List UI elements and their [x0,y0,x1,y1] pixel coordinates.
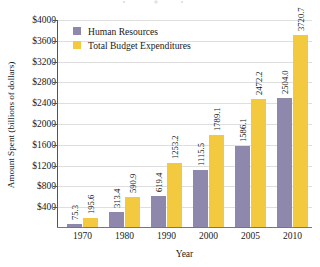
legend-item-total-budget[interactable]: Total Budget Expenditures [73,38,243,52]
y-tick-label: $2000 [10,119,56,129]
x-tick-label: 2005 [229,231,273,241]
bar-value-label: 75.3 [69,205,79,220]
y-tick-label: $1600 [10,140,56,150]
legend-swatch-icon [73,41,81,49]
x-axis-title: Year [57,249,312,259]
bar-value-label: 2504.0 [279,70,289,94]
bar-total-budget[interactable]: 2472.2 [251,99,266,228]
bar-value-label: 1253.2 [169,135,179,159]
y-tick-label: $2800 [10,77,56,87]
x-tick-label: 1990 [145,231,189,241]
bar-human-resources[interactable]: 619.4 [151,196,166,228]
bar-value-label: 2472.2 [253,72,263,96]
bar-human-resources[interactable]: 1586.1 [235,146,250,229]
bar-total-budget[interactable]: 590.9 [125,197,140,228]
x-tick-label: 2010 [271,231,315,241]
y-tick-label: $800 [10,181,56,191]
bar-value-label: 1789.1 [211,107,221,131]
y-tick-label: $2400 [10,98,56,108]
x-tick-label: 2000 [187,231,231,241]
x-axis-tick-labels: 1970 1980 1990 2000 2005 2010 [57,231,312,247]
bar-value-label: 590.9 [127,174,137,193]
bar-total-budget[interactable]: 3720.7 [293,35,308,229]
x-tick-label: 1970 [61,231,105,241]
legend-swatch-icon [73,27,81,35]
bar-total-budget[interactable]: 1789.1 [209,135,224,228]
chart-legend: Human Resources Total Budget Expenditure… [73,24,243,52]
legend-item-label: Total Budget Expenditures [88,40,191,51]
bar-total-budget[interactable]: 1253.2 [167,163,182,228]
bar-value-label: 195.6 [85,194,95,213]
bar-human-resources[interactable]: 313.4 [109,212,124,228]
y-tick-label: $3600 [10,36,56,46]
bar-value-label: 1586.1 [237,118,247,142]
x-tick-label: 1980 [103,231,147,241]
legend-item-label: Human Resources [88,26,158,37]
legend-item-human-resources[interactable]: Human Resources [73,24,243,38]
bar-value-label: 619.4 [153,172,163,191]
x-axis-line [57,227,312,228]
bar-value-label: 1115.5 [195,143,205,166]
y-axis-tick-labels: $4000 $3600 $3200 $2800 $2400 $2000 $160… [8,0,56,267]
bar-value-label: 313.4 [111,188,121,207]
bar-human-resources[interactable]: 1115.5 [193,170,208,228]
bar-human-resources[interactable]: 2504.0 [277,98,292,228]
y-tick-label: $3200 [10,57,56,67]
bar-chart: Amount Spent (billions of dollars) $4000… [0,0,320,267]
scan-artifact [110,0,200,5]
y-tick-label: $4000 [10,15,56,25]
y-tick-label: $400 [10,202,56,212]
y-tick-label: $1200 [10,161,56,171]
bar-value-label: 3720.7 [295,7,305,31]
